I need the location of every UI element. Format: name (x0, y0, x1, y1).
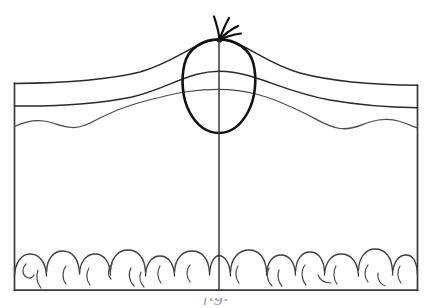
specimen-block-outline (15, 83, 418, 291)
plane-upper-surface (15, 39, 418, 85)
figure-caption: fig. (0, 298, 432, 308)
figure-caption-text: fig. (0, 298, 432, 306)
plane-lower-wavy (15, 89, 418, 128)
subcutaneous-fat-layer (15, 249, 418, 288)
figure-canvas: fig. (0, 0, 432, 308)
cross-section-sketch (0, 0, 432, 308)
